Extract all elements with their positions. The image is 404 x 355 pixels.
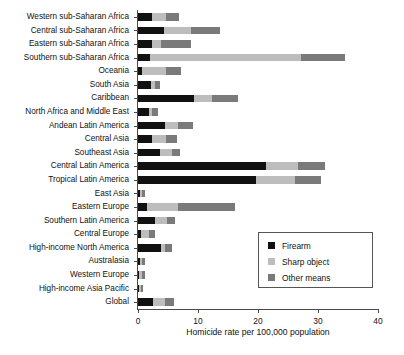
category-label: Oceania — [0, 64, 134, 78]
bar-segment — [194, 95, 212, 103]
bar-segment — [172, 149, 180, 157]
x-axis-title: Homicide rate per 100,000 population — [138, 327, 378, 337]
legend-swatch-icon — [268, 258, 275, 265]
category-label: South Asia — [0, 78, 134, 92]
x-axis-tick — [198, 309, 199, 313]
bar-segment — [152, 13, 166, 21]
bar-segment — [256, 176, 295, 184]
category-label: Tropical Latin America — [0, 173, 134, 187]
chart-plot-wrapper: Western sub-Saharan AfricaCentral sub-Sa… — [0, 0, 404, 355]
category-label: Western sub-Saharan Africa — [0, 10, 134, 24]
bar-segment — [212, 95, 237, 103]
bar-segment — [138, 40, 152, 48]
bar-segment — [167, 217, 175, 225]
category-label: Western Europe — [0, 268, 134, 282]
legend-label: Other means — [282, 270, 330, 286]
category-label: Caribbean — [0, 91, 134, 105]
category-label: North Africa and Middle East — [0, 105, 134, 119]
bar-segment — [142, 258, 145, 266]
bar-segment — [138, 135, 152, 143]
category-label: Australasia — [0, 254, 134, 268]
x-axis-tick — [378, 309, 379, 313]
x-axis-tick-label: 40 — [373, 316, 382, 326]
bar-segment — [150, 54, 301, 62]
category-axis-labels: Western sub-Saharan AfricaCentral sub-Sa… — [0, 10, 134, 309]
bar-segment — [295, 176, 321, 184]
bar-segment — [266, 162, 297, 170]
bar-segment — [178, 203, 234, 211]
bar-segment — [138, 27, 164, 35]
bar-segment — [165, 298, 174, 306]
legend-label: Sharp object — [282, 254, 329, 270]
bar-segment — [166, 67, 180, 75]
bar-segment — [155, 81, 160, 89]
bar-segment — [161, 40, 191, 48]
x-axis-tick — [318, 309, 319, 313]
category-label: Central Europe — [0, 227, 134, 241]
chart-legend: FirearmSharp objectOther means — [258, 232, 373, 288]
category-label: High-income North America — [0, 241, 134, 255]
bar-segment — [138, 95, 194, 103]
bar-segment — [138, 108, 149, 116]
x-axis-tick-label: 0 — [136, 316, 141, 326]
bar-segment — [191, 27, 219, 35]
category-label: Southern Latin America — [0, 214, 134, 228]
bar-segment — [138, 13, 152, 21]
category-label: Andean Latin America — [0, 119, 134, 133]
bar-segment — [178, 122, 193, 130]
category-label: Central Latin America — [0, 159, 134, 173]
bar-segment — [138, 149, 160, 157]
bar-segment — [147, 203, 178, 211]
legend-label: Firearm — [282, 238, 311, 254]
bar-segment — [166, 135, 177, 143]
bar-segment — [138, 122, 165, 130]
category-label: Southern sub-Saharan Africa — [0, 51, 134, 65]
bar-segment — [152, 108, 158, 116]
bar-segment — [166, 13, 179, 21]
bar-segment — [155, 217, 167, 225]
bar-segment — [142, 67, 167, 75]
bar-segment — [138, 81, 151, 89]
category-label: Southeast Asia — [0, 146, 134, 160]
bar-segment — [141, 230, 149, 238]
bar-segment — [138, 162, 266, 170]
bar-segment — [138, 54, 150, 62]
x-axis-tick — [138, 309, 139, 313]
category-label: Eastern sub-Saharan Africa — [0, 37, 134, 51]
category-label: Central Asia — [0, 132, 134, 146]
bar-segment — [138, 244, 161, 252]
bar-segment — [165, 244, 172, 252]
category-label: Central sub-Saharan Africa — [0, 24, 134, 38]
bar-segment — [138, 217, 155, 225]
bar-segment — [160, 149, 172, 157]
bar-segment — [142, 271, 145, 279]
bar-segment — [152, 40, 161, 48]
category-label: Eastern Europe — [0, 200, 134, 214]
bar-segment — [153, 298, 165, 306]
category-label: East Asia — [0, 187, 134, 201]
legend-swatch-icon — [268, 242, 275, 249]
bar-segment — [138, 298, 153, 306]
bar-segment — [152, 135, 166, 143]
category-label: High-income Asia Pacific — [0, 282, 134, 296]
bar-segment — [165, 122, 178, 130]
bar-segment — [298, 162, 325, 170]
x-axis-tick-label: 20 — [253, 316, 262, 326]
bar-segment — [142, 190, 146, 198]
bar-segment — [138, 203, 147, 211]
x-axis-tick — [258, 309, 259, 313]
category-label: Global — [0, 295, 134, 309]
bar-segment — [138, 176, 256, 184]
legend-swatch-icon — [268, 274, 275, 281]
horizontal-stacked-bar-chart: Western sub-Saharan AfricaCentral sub-Sa… — [0, 0, 404, 355]
x-axis-tick-label: 30 — [313, 316, 322, 326]
x-axis-tick-label: 10 — [193, 316, 202, 326]
bar-segment — [141, 285, 143, 293]
bar-segment — [301, 54, 345, 62]
bar-segment — [149, 230, 156, 238]
bar-segment — [164, 27, 191, 35]
